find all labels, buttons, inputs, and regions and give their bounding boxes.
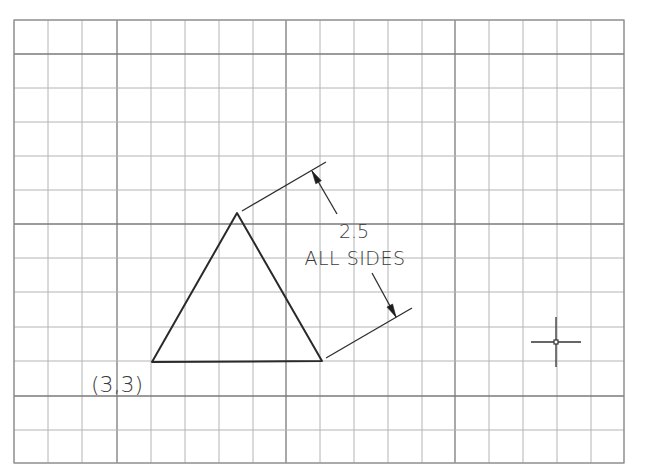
- dimension-annotation: 2.5 ALL SIDES: [242, 162, 412, 358]
- start-point-coordinate-label: (3,3): [91, 372, 143, 397]
- dimension-note: ALL SIDES: [304, 247, 405, 269]
- triangle-shape[interactable]: [152, 213, 322, 362]
- equilateral-triangle[interactable]: [152, 213, 322, 362]
- dimension-value: 2.5: [339, 220, 369, 242]
- extension-line-top: [242, 162, 326, 211]
- drawing-canvas[interactable]: 2.5 ALL SIDES (3,3): [0, 0, 647, 474]
- extension-line-bottom: [326, 308, 412, 358]
- crosshair-cursor-icon: [531, 317, 581, 367]
- cursor-pickbox: [554, 340, 558, 344]
